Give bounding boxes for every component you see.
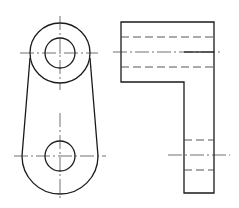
front-view (14, 16, 106, 200)
side-view (113, 22, 230, 193)
side-outline (121, 22, 214, 193)
technical-drawing (0, 0, 239, 208)
